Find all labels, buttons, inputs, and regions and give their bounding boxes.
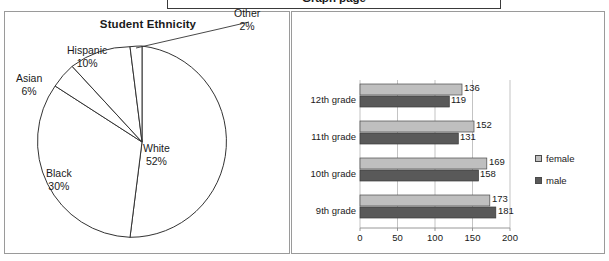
pie-label-hispanic: Hispanic 10% [67, 44, 107, 69]
pie-label-white-name: White [143, 142, 170, 154]
pie-label-black: Black 30% [46, 167, 72, 192]
bar-female-10th [360, 158, 487, 169]
value-label-male-10th: 158 [480, 168, 496, 179]
bar-male-10th [360, 170, 479, 181]
pie-chart-graphic [5, 12, 291, 255]
pie-label-black-value: 30% [46, 180, 72, 193]
pie-label-other-value: 2% [234, 20, 260, 33]
legend-label-female: female [546, 153, 575, 164]
pie-leader-line-other [136, 22, 249, 48]
xtick-label-50: 50 [388, 232, 408, 243]
bar-female-11th [360, 121, 474, 132]
clipped-table-row: Graph page [0, 0, 609, 11]
category-label-12th-grade: 12th grade [294, 94, 356, 105]
value-label-female-9th: 173 [492, 193, 508, 204]
value-label-male-9th: 181 [498, 205, 514, 216]
legend-swatch-female-icon [535, 155, 542, 162]
pie-label-white-value: 52% [143, 155, 170, 168]
xtick-label-200: 200 [498, 232, 522, 243]
bar-male-9th [360, 207, 496, 218]
value-label-female-11th: 152 [476, 119, 492, 130]
xtick-label-0: 0 [350, 232, 370, 243]
pie-label-other-name: Other [234, 7, 260, 19]
pie-label-white: White 52% [143, 142, 170, 167]
value-label-male-12th: 119 [451, 94, 466, 105]
xtick-label-100: 100 [423, 232, 447, 243]
clipped-table-cell-text: Graph page [167, 0, 501, 9]
pie-chart-panel: Student Ethnicity White 52% Black 30% As… [4, 11, 290, 254]
pie-label-hispanic-value: 10% [67, 57, 107, 70]
pie-label-other: Other 2% [234, 7, 260, 32]
bar-female-9th [360, 195, 490, 206]
pie-label-asian-value: 6% [16, 85, 42, 98]
xtick-label-150: 150 [461, 232, 485, 243]
bar-chart-panel: 12th grade 11th grade 10th grade 9th gra… [291, 11, 605, 254]
bar-female-12th [360, 84, 462, 95]
legend-item-male[interactable]: male [535, 175, 567, 186]
pie-label-black-name: Black [46, 167, 72, 179]
legend-label-male: male [546, 175, 567, 186]
category-label-9th-grade: 9th grade [294, 205, 356, 216]
value-label-female-12th: 136 [464, 82, 480, 93]
legend-item-female[interactable]: female [535, 153, 575, 164]
value-label-male-11th: 131 [460, 131, 476, 142]
category-label-10th-grade: 10th grade [294, 168, 356, 179]
pie-label-asian-name: Asian [16, 72, 42, 84]
pie-label-hispanic-name: Hispanic [67, 44, 107, 56]
legend-swatch-male-icon [535, 177, 542, 184]
bar-male-12th [360, 96, 449, 107]
pie-label-asian: Asian 6% [16, 72, 42, 97]
value-label-female-10th: 169 [489, 156, 505, 167]
bar-male-11th [360, 133, 458, 144]
category-label-11th-grade: 11th grade [294, 131, 356, 142]
